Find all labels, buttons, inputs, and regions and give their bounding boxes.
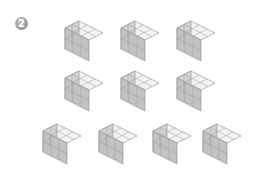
cuboid-drawing — [172, 68, 220, 116]
cuboid-r2-1 — [60, 68, 108, 116]
cuboid-drawing — [60, 68, 108, 116]
cuboid-drawing — [116, 68, 164, 116]
cuboid-r2-3 — [172, 68, 220, 116]
cuboid-drawing — [116, 18, 164, 66]
cuboid-drawing — [38, 121, 86, 169]
cuboid-drawing — [148, 121, 196, 169]
cuboid-r1-2 — [116, 18, 164, 66]
number-badge: 2 — [15, 17, 28, 30]
cuboid-drawing — [198, 121, 246, 169]
cuboid-r3-2 — [94, 121, 142, 169]
cuboid-r2-2 — [116, 68, 164, 116]
cuboid-r3-3 — [148, 121, 196, 169]
cuboid-r1-3 — [172, 18, 220, 66]
cuboid-r1-1 — [60, 18, 108, 66]
cuboid-drawing — [94, 121, 142, 169]
cuboid-r3-4 — [198, 121, 246, 169]
cuboid-r3-1 — [38, 121, 86, 169]
cuboid-drawing — [172, 18, 220, 66]
cuboid-drawing — [60, 18, 108, 66]
